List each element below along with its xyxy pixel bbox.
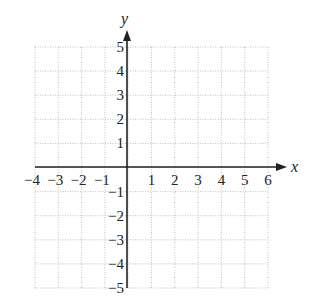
- x-tick-label: −3: [47, 172, 63, 188]
- y-tick-label: 3: [117, 87, 125, 103]
- x-tick-label: 6: [264, 172, 272, 188]
- y-tick-label: −5: [108, 280, 124, 296]
- y-axis-arrow-icon: [123, 30, 131, 41]
- y-tick-label: −3: [108, 232, 124, 248]
- x-tick-label: 4: [218, 172, 226, 188]
- axes: x y: [35, 10, 298, 288]
- y-tick-label: −4: [108, 256, 124, 272]
- x-tick-label: −2: [71, 172, 87, 188]
- y-tick-label: −2: [108, 208, 124, 224]
- x-tick-label: 5: [241, 172, 249, 188]
- x-tick-label: 1: [148, 172, 156, 188]
- y-axis-label: y: [119, 10, 129, 28]
- x-tick-label: 3: [194, 172, 202, 188]
- coordinate-plane: x y −4−3−2−1123456 54321−1−2−3−4−5: [0, 0, 312, 303]
- x-axis-arrow-icon: [276, 163, 287, 171]
- y-tick-label: 5: [117, 39, 125, 55]
- y-tick-label: 4: [117, 63, 125, 79]
- y-tick-label: 2: [117, 111, 125, 127]
- y-tick-label: −1: [108, 184, 124, 200]
- x-tick-label: 2: [171, 172, 179, 188]
- y-tick-label: 1: [117, 135, 125, 151]
- x-axis-label: x: [290, 158, 298, 175]
- x-tick-label: −4: [24, 172, 40, 188]
- x-tick-labels: −4−3−2−1123456: [24, 172, 272, 188]
